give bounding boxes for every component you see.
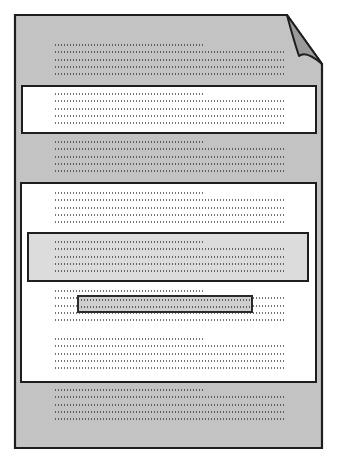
placeholder-text-line xyxy=(54,44,205,46)
placeholder-text-line xyxy=(54,192,205,194)
placeholder-text-line xyxy=(54,199,285,201)
placeholder-text-line xyxy=(54,221,285,223)
placeholder-text-line xyxy=(54,51,285,53)
placeholder-text-line xyxy=(54,214,285,216)
placeholder-text-line xyxy=(54,353,285,355)
placeholder-text-line xyxy=(54,256,285,258)
placeholder-text-line xyxy=(54,319,285,321)
document-diagram: Document page schematic with highlighted… xyxy=(0,0,338,458)
placeholder-text-line xyxy=(54,93,205,95)
placeholder-text-line xyxy=(54,263,285,265)
placeholder-text-line xyxy=(54,367,285,369)
placeholder-text-line xyxy=(54,108,285,110)
placeholder-text-line xyxy=(54,115,285,117)
placeholder-text-line xyxy=(54,248,285,250)
placeholder-text-line xyxy=(54,290,205,292)
placeholder-text-line xyxy=(54,338,205,340)
placeholder-text-line xyxy=(54,73,285,75)
placeholder-text-line xyxy=(54,404,285,406)
placeholder-text-line xyxy=(54,418,285,420)
placeholder-text-line xyxy=(54,100,285,102)
placeholder-text-line xyxy=(80,299,250,301)
placeholder-text-line xyxy=(54,360,285,362)
placeholder-text-line xyxy=(54,66,285,68)
placeholder-text-line xyxy=(54,345,285,347)
placeholder-text-line xyxy=(80,306,250,308)
highlight-bar xyxy=(77,295,253,313)
placeholder-text-line xyxy=(54,156,285,158)
placeholder-text-line xyxy=(54,148,285,150)
placeholder-text-line xyxy=(54,396,285,398)
placeholder-text-line xyxy=(54,389,205,391)
placeholder-text-line xyxy=(54,170,285,172)
placeholder-text-line xyxy=(54,411,285,413)
placeholder-text-line xyxy=(54,141,205,143)
placeholder-text-line xyxy=(54,241,205,243)
placeholder-text-line xyxy=(54,270,285,272)
placeholder-text-line xyxy=(54,122,285,124)
placeholder-text-line xyxy=(54,59,285,61)
placeholder-text-line xyxy=(54,163,285,165)
placeholder-text-line xyxy=(54,207,285,209)
